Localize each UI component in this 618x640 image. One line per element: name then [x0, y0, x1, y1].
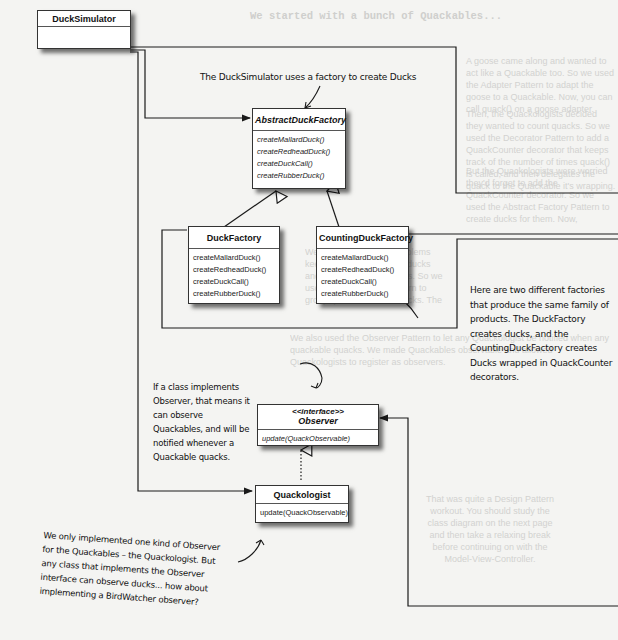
method: createRedheadDuck() — [257, 146, 341, 158]
class-name: Quackologist — [256, 486, 348, 504]
method: update(QuackObservable) — [262, 433, 374, 445]
method-list: createMallardDuck() createRedheadDuck() … — [189, 249, 279, 303]
annotation-observer: If a class implements Observer, that mea… — [153, 380, 253, 464]
class-name: DuckSimulator — [38, 11, 130, 27]
class-quackologist[interactable]: Quackologist update(QuackObservable) — [255, 485, 349, 523]
annotation-factory: The DuckSimulator uses a factory to crea… — [200, 70, 460, 84]
method: createRedheadDuck() — [321, 264, 404, 276]
class-name: AbstractDuckFactory — [253, 109, 345, 131]
class-duckfactory[interactable]: DuckFactory createMallardDuck() createRe… — [188, 226, 280, 304]
method-list: update(QuackObservable) — [256, 504, 348, 522]
method: createRedheadDuck() — [193, 264, 275, 276]
method: update(QuackObservable) — [260, 507, 344, 519]
method: createDuckCall() — [321, 276, 404, 288]
method-list: createMallardDuck() createRedheadDuck() … — [253, 131, 345, 185]
class-name: CountingDuckFactory — [317, 227, 408, 249]
interface-name: Observer — [298, 416, 338, 426]
method: createMallardDuck() — [257, 134, 341, 146]
method: createRubberDuck() — [321, 288, 404, 300]
method: createMallardDuck() — [193, 252, 275, 264]
method-list: createMallardDuck() createRedheadDuck() … — [317, 249, 408, 303]
class-name: DuckFactory — [189, 227, 279, 249]
stereotype-label: <<interface>> — [260, 407, 376, 416]
annotation-quackologist: We only implemented one kind of Observer… — [39, 528, 233, 611]
method: createDuckCall() — [193, 276, 275, 288]
method: createRubberDuck() — [257, 170, 341, 182]
method-list: update(QuackObservable) — [258, 430, 378, 448]
class-name: <<interface>> Observer — [258, 405, 378, 430]
method: createRubberDuck() — [193, 288, 275, 300]
class-countingduckfactory[interactable]: CountingDuckFactory createMallardDuck() … — [316, 226, 409, 304]
class-ducksimulator[interactable]: DuckSimulator — [37, 10, 131, 49]
class-abstractduckfactory[interactable]: AbstractDuckFactory createMallardDuck() … — [252, 108, 346, 189]
method: createMallardDuck() — [321, 252, 404, 264]
annotation-two-factories: Here are two different factories that pr… — [470, 283, 615, 385]
method: createDuckCall() — [257, 158, 341, 170]
interface-observer[interactable]: <<interface>> Observer update(QuackObser… — [257, 404, 379, 446]
